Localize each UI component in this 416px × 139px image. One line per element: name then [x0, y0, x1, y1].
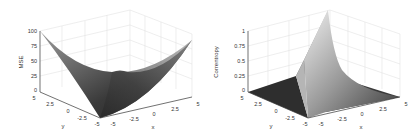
svg-text:-2.5: -2.5	[77, 115, 86, 121]
mse-surface-plot: 100 75 50 25 0 MSE 5 2.5 0 -2.5 -5 y -5 …	[0, 0, 208, 139]
svg-text:2.5: 2.5	[171, 106, 179, 112]
svg-text:-2.5: -2.5	[285, 115, 294, 121]
svg-text:50: 50	[31, 58, 37, 64]
svg-text:2.5: 2.5	[379, 106, 387, 112]
svg-text:2.5: 2.5	[254, 101, 262, 107]
svg-text:5: 5	[404, 101, 407, 107]
svg-text:100: 100	[28, 28, 37, 34]
svg-text:0: 0	[360, 111, 363, 117]
svg-text:0.75: 0.75	[234, 43, 245, 49]
z-axis-ticks: 1 0.75 0.5 0.25 0	[234, 28, 245, 93]
svg-text:0: 0	[152, 111, 155, 117]
svg-text:-5: -5	[95, 121, 100, 127]
x-axis-label: x	[152, 124, 155, 130]
y-axis-label: y	[62, 123, 65, 129]
svg-text:0.5: 0.5	[237, 58, 245, 64]
correntropy-spike	[304, 10, 400, 118]
svg-text:-2.5: -2.5	[129, 116, 138, 122]
svg-text:75: 75	[31, 43, 37, 49]
svg-text:1: 1	[242, 28, 245, 34]
svg-text:0: 0	[34, 87, 37, 93]
svg-text:0: 0	[66, 108, 69, 114]
svg-text:5: 5	[32, 95, 35, 101]
svg-text:0: 0	[274, 108, 277, 114]
svg-text:-5: -5	[111, 121, 116, 127]
svg-text:-5: -5	[303, 121, 308, 127]
z-axis-label: Correntropy	[213, 46, 219, 78]
svg-text:25: 25	[31, 73, 37, 79]
mse-plot-canvas: 100 75 50 25 0 MSE 5 2.5 0 -2.5 -5 y -5 …	[0, 0, 208, 139]
svg-text:0.25: 0.25	[234, 73, 245, 79]
z-axis-label: MSE	[18, 55, 24, 68]
svg-text:-5: -5	[319, 121, 324, 127]
correntropy-plot-canvas: 1 0.75 0.5 0.25 0 Correntropy 5 2.5 0 -2…	[208, 0, 416, 139]
svg-text:2.5: 2.5	[46, 101, 54, 107]
svg-text:-2.5: -2.5	[337, 116, 346, 122]
z-axis-ticks: 100 75 50 25 0	[28, 28, 37, 93]
correntropy-surface-plot: 1 0.75 0.5 0.25 0 Correntropy 5 2.5 0 -2…	[208, 0, 416, 139]
x-axis-label: x	[360, 124, 363, 130]
y-axis-label: y	[270, 123, 273, 129]
svg-text:5: 5	[196, 101, 199, 107]
svg-text:0: 0	[242, 87, 245, 93]
svg-text:5: 5	[240, 95, 243, 101]
